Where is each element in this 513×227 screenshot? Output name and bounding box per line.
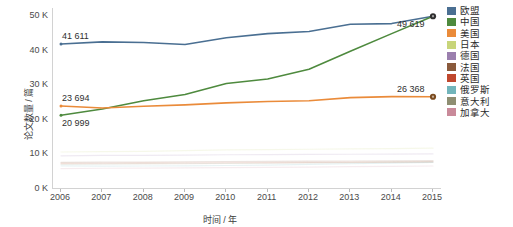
plot-area xyxy=(52,8,441,189)
x-tick-label: 2008 xyxy=(133,192,153,202)
legend-swatch xyxy=(447,29,456,37)
x-tick-mark xyxy=(432,189,433,192)
x-tick-label: 2013 xyxy=(339,192,359,202)
legend-swatch xyxy=(447,18,456,26)
legend-swatch xyxy=(447,52,456,60)
x-tick-label: 2007 xyxy=(91,192,111,202)
x-tick-mark xyxy=(225,189,226,192)
legend-item[interactable]: 意大利 xyxy=(447,95,513,106)
legend-item-label: 美国 xyxy=(460,28,480,39)
x-tick-mark xyxy=(391,189,392,192)
x-axis-title: 时间 / 年 xyxy=(0,213,440,226)
legend-item-label: 法国 xyxy=(460,62,480,73)
x-tick-mark xyxy=(349,189,350,192)
x-tick-mark xyxy=(101,189,102,192)
series-lines xyxy=(53,8,441,188)
x-tick-label: 2014 xyxy=(381,192,401,202)
legend-item[interactable]: 俄罗斯 xyxy=(447,84,513,95)
legend-item[interactable]: 中国 xyxy=(447,16,513,27)
x-tick-mark xyxy=(308,189,309,192)
series-start-marker xyxy=(60,114,63,117)
x-tick-mark xyxy=(143,189,144,192)
x-tick-label: 2010 xyxy=(215,192,235,202)
series-start-marker xyxy=(60,104,63,107)
data-label: 20 999 xyxy=(62,118,90,128)
legend-item[interactable]: 英国 xyxy=(447,73,513,84)
legend-swatch xyxy=(447,41,456,49)
x-tick-label: 2012 xyxy=(298,192,318,202)
endpoint-marker-core xyxy=(432,96,434,98)
series-line xyxy=(61,154,433,156)
legend: 欧盟中国美国日本德国法国英国俄罗斯意大利加拿大 xyxy=(447,5,513,118)
legend-item-label: 英国 xyxy=(460,73,480,84)
legend-item-label: 俄罗斯 xyxy=(460,84,490,95)
data-label: 23 694 xyxy=(62,93,90,103)
data-label: 41 611 xyxy=(62,31,89,41)
legend-item-label: 日本 xyxy=(460,39,480,50)
legend-swatch xyxy=(447,63,456,71)
x-tick-label: 2009 xyxy=(174,192,194,202)
legend-swatch xyxy=(447,97,456,105)
data-label: 49 619 xyxy=(397,19,425,29)
x-tick-label: 2006 xyxy=(50,192,70,202)
x-tick-label: 2015 xyxy=(422,192,442,202)
legend-item[interactable]: 德国 xyxy=(447,50,513,61)
legend-item-label: 德国 xyxy=(460,50,480,61)
legend-swatch xyxy=(447,86,456,94)
legend-item-label: 意大利 xyxy=(460,96,490,107)
legend-item-label: 中国 xyxy=(460,16,480,27)
legend-item[interactable]: 加拿大 xyxy=(447,107,513,118)
data-label: 26 368 xyxy=(397,84,425,94)
endpoint-marker-core xyxy=(432,15,434,17)
legend-swatch xyxy=(447,108,456,116)
legend-item-label: 欧盟 xyxy=(460,5,480,16)
legend-item[interactable]: 欧盟 xyxy=(447,5,513,16)
x-tick-mark xyxy=(60,189,61,192)
legend-item-label: 加拿大 xyxy=(460,107,490,118)
legend-item[interactable]: 日本 xyxy=(447,39,513,50)
x-tick-label: 2011 xyxy=(257,192,276,202)
x-tick-mark xyxy=(184,189,185,192)
series-line xyxy=(61,16,433,115)
legend-item[interactable]: 美国 xyxy=(447,28,513,39)
series-start-marker xyxy=(60,42,63,45)
legend-swatch xyxy=(447,7,456,15)
line-chart: 论文数量 / 篇 0 K10 K20 K30 K40 K50 K 2006200… xyxy=(0,0,513,227)
x-tick-mark xyxy=(267,189,268,192)
legend-item[interactable]: 法国 xyxy=(447,61,513,72)
legend-swatch xyxy=(447,74,456,82)
series-line xyxy=(61,148,433,152)
